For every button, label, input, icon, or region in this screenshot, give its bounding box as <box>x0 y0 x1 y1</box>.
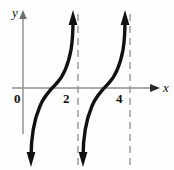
x-axis <box>12 84 160 92</box>
y-axis-arrow-icon <box>19 10 27 19</box>
tick-label-0: 0 <box>14 91 21 106</box>
curve-arrow-down-middle-icon <box>79 152 88 167</box>
y-axis-label: y <box>10 5 18 20</box>
x-axis-arrow-icon <box>150 84 160 92</box>
curve-path-left <box>31 20 73 158</box>
curve-arrow-up-middle-icon <box>121 10 130 25</box>
x-axis-label: x <box>162 80 169 95</box>
graph-figure: y x 0 2 4 <box>0 0 174 170</box>
curve-path-middle <box>83 20 125 158</box>
tick-label-4: 4 <box>116 91 123 106</box>
tick-label-2: 2 <box>63 91 70 106</box>
y-axis <box>19 10 27 134</box>
curve-arrow-up-left-icon <box>69 10 78 25</box>
plot-canvas: y x 0 2 4 <box>0 0 174 170</box>
curve-arrow-down-left-icon <box>27 152 36 167</box>
